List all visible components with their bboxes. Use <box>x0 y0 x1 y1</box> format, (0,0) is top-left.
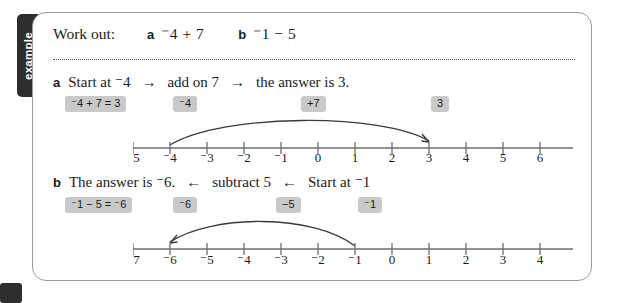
equation-chip-a: ⁻4 + 7 = 3 <box>65 96 126 112</box>
jump-arc-b <box>170 221 355 246</box>
step-b-part-2: subtract 5 <box>212 174 271 191</box>
svg-text:⁻3: ⁻3 <box>274 252 288 266</box>
work-out-label: Work out: <box>53 25 115 43</box>
svg-text:6: 6 <box>537 150 544 163</box>
svg-text:⁻1: ⁻1 <box>348 252 362 266</box>
svg-text:⁻5: ⁻5 <box>200 252 214 266</box>
svg-text:4: 4 <box>537 252 544 266</box>
svg-text:3: 3 <box>426 150 433 163</box>
operation-chip-a: +7 <box>301 96 326 112</box>
start-chip-a: ⁻4 <box>173 96 197 112</box>
header-divider <box>53 59 575 60</box>
start-chip-b: ⁻1 <box>358 197 382 213</box>
step-a-letter: a <box>53 75 60 90</box>
svg-text:2: 2 <box>389 150 396 163</box>
answer-chip-a: 3 <box>431 96 449 112</box>
svg-text:⁻5: ⁻5 <box>133 150 140 163</box>
equation-chip-b: ⁻1 − 5 = ⁻6 <box>65 197 132 213</box>
svg-text:⁻3: ⁻3 <box>200 150 214 163</box>
step-line-b: b The answer is ⁻6. ← subtract 5 ← Start… <box>53 173 381 191</box>
step-line-a: a Start at ⁻4 → add on 7 → the answer is… <box>53 73 360 91</box>
axis-tick-labels-b: ⁻7 ⁻6 ⁻5 ⁻4 ⁻3 ⁻2 ⁻1 0 1 2 3 4 <box>133 252 544 266</box>
question-a-letter: a <box>147 27 154 42</box>
numberline-a: ⁻5 ⁻4 ⁻3 ⁻2 ⁻1 0 1 2 3 4 5 6 <box>133 115 573 163</box>
question-b-letter: b <box>238 27 246 42</box>
question-b-expression: ⁻1 − 5 <box>253 25 296 43</box>
svg-text:1: 1 <box>426 252 433 266</box>
question-header: Work out: a ⁻4 + 7 b ⁻1 − 5 <box>53 25 330 43</box>
svg-text:4: 4 <box>463 150 470 163</box>
numberline-b: ⁻7 ⁻6 ⁻5 ⁻4 ⁻3 ⁻2 ⁻1 0 1 2 3 4 <box>133 216 573 266</box>
step-a-arrow-1: → <box>141 74 156 91</box>
step-a-part-3: the answer is 3. <box>256 74 349 91</box>
jump-arc-a <box>170 120 429 145</box>
step-a-arrow-2: → <box>230 74 245 91</box>
svg-text:1: 1 <box>352 150 359 163</box>
step-b-arrow-1: ← <box>186 174 201 191</box>
svg-text:⁻6: ⁻6 <box>163 252 177 266</box>
axis-tick-labels-a: ⁻5 ⁻4 ⁻3 ⁻2 ⁻1 0 1 2 3 4 5 6 <box>133 150 544 163</box>
svg-text:3: 3 <box>500 252 507 266</box>
jump-arrowhead-b <box>170 235 178 243</box>
step-b-arrow-2: ← <box>282 174 297 191</box>
svg-text:⁻2: ⁻2 <box>311 252 325 266</box>
svg-text:⁻4: ⁻4 <box>237 252 251 266</box>
answer-chip-b: ⁻6 <box>173 197 197 213</box>
step-b-part-1: The answer is ⁻6. <box>69 173 175 191</box>
svg-text:2: 2 <box>463 252 470 266</box>
step-b-letter: b <box>53 175 61 190</box>
svg-text:⁻4: ⁻4 <box>163 150 177 163</box>
example-card: Work out: a ⁻4 + 7 b ⁻1 − 5 a Start at ⁻… <box>32 12 592 281</box>
question-a-expression: ⁻4 + 7 <box>161 25 204 43</box>
svg-text:⁻1: ⁻1 <box>274 150 288 163</box>
page-corner-block <box>0 283 22 303</box>
operation-chip-b: −5 <box>276 197 301 213</box>
step-a-part-1: Start at ⁻4 <box>68 73 130 91</box>
step-b-part-3: Start at ⁻1 <box>308 173 370 191</box>
svg-text:0: 0 <box>315 150 322 163</box>
svg-text:5: 5 <box>500 150 507 163</box>
step-a-part-2: add on 7 <box>167 74 219 91</box>
svg-text:⁻2: ⁻2 <box>237 150 251 163</box>
svg-text:0: 0 <box>389 252 396 266</box>
svg-text:⁻7: ⁻7 <box>133 252 140 266</box>
